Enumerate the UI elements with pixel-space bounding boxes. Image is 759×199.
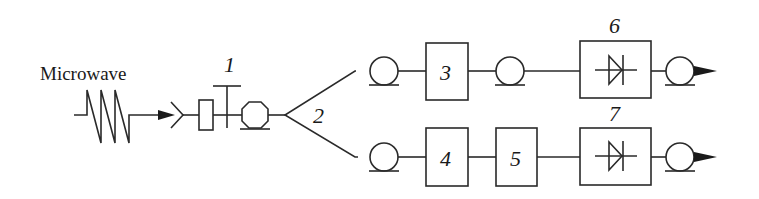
output-arrow-icon (694, 152, 717, 162)
fiber-coil-icon (665, 57, 695, 85)
label-5: 5 (510, 146, 521, 171)
fiber-coil-octagon-icon (240, 102, 270, 129)
fiber-coil-icon (665, 143, 695, 171)
fiber-coil-icon (369, 143, 399, 171)
attenuator-t-icon (213, 86, 241, 128)
microwave-label: Microwave (40, 63, 127, 84)
modulator-block (199, 100, 213, 130)
output-arrow-icon (694, 66, 717, 76)
label-3: 3 (439, 60, 451, 85)
fiber-coil-icon (495, 57, 525, 85)
label-7: 7 (609, 101, 621, 126)
label-2: 2 (313, 103, 324, 128)
label-6: 6 (609, 13, 620, 38)
antenna-icon (171, 102, 199, 128)
label-4: 4 (440, 146, 451, 171)
zigzag-wave-icon (74, 90, 175, 143)
optical-microwave-diagram: Microwave 1 2 3 (0, 0, 759, 199)
label-1: 1 (224, 52, 235, 77)
fiber-coil-icon (369, 57, 399, 85)
